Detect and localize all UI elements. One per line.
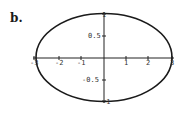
x-tick-label: 1 xyxy=(124,59,128,67)
x-tick-label: -3 xyxy=(30,59,38,67)
x-tick-label: -2 xyxy=(55,59,63,67)
x-tick-label: 3 xyxy=(170,59,174,67)
y-tick-label: 1 xyxy=(102,11,106,19)
y-tick-label: 0.5 xyxy=(88,32,101,40)
y-tick-label: -0.5 xyxy=(82,76,99,84)
y-tick-label: -1 xyxy=(102,98,110,106)
x-tick-label: 2 xyxy=(146,59,150,67)
x-tick-label: -1 xyxy=(77,59,85,67)
ellipse-plot: -3 -2 -1 1 2 3 1 0.5 -0.5 -1 xyxy=(0,0,183,113)
